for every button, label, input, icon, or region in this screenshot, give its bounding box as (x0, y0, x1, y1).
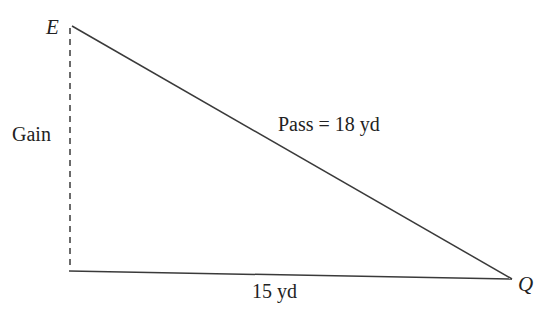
pass-label: Pass = 18 yd (278, 113, 380, 136)
gain-label: Gain (12, 123, 51, 145)
vertex-label-q: Q (518, 272, 533, 296)
base-side (69, 271, 512, 279)
vertex-label-e: E (45, 15, 59, 39)
triangle-diagram: E Gain Pass = 18 yd 15 yd Q (0, 0, 540, 317)
pass-hypotenuse (72, 26, 512, 279)
base-label: 15 yd (252, 280, 297, 303)
